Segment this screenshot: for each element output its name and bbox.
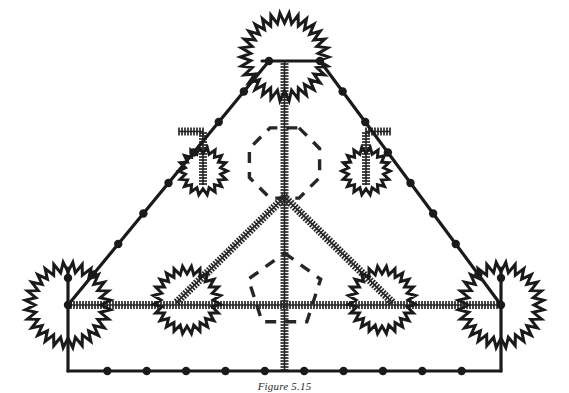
figure-container: Figure 5.15 [0,0,569,393]
right-edge-dot-7 [474,270,482,278]
left-corner-upper-dot [64,274,72,282]
left-corner-mid-dot [64,301,72,309]
inner-right-wavy-loop [348,266,415,333]
figure-caption: Figure 5.15 [0,378,569,393]
inner-left-wavy-loop [153,266,220,333]
bottom-edge-dot-1 [103,367,111,375]
bottom-edge-dot-10 [457,367,465,375]
bottom-edge-dot-5 [261,367,269,375]
right-edge-dot-2 [361,118,369,126]
right-corner-mid-dot [497,301,505,309]
apex-left-dot [265,57,273,65]
apex-right-dot [316,57,324,65]
right-edge-dot-5 [429,209,437,217]
center-v-branches-right [282,194,395,305]
left-edge-dot-6 [114,240,122,248]
center-ladder-spine [281,61,289,371]
bottom-edge-dot-9 [418,367,426,375]
bottom-edge-dot-8 [379,367,387,375]
right-corner-upper-dot [497,274,505,282]
right-edge-dot-6 [452,240,460,248]
left-edge-dot-7 [89,270,97,278]
upper-right-small-loop-stem [362,133,370,185]
right-edge-dot-1 [338,87,346,95]
left-edge-dot-4 [164,179,172,187]
bottom-edge-dot-6 [300,367,308,375]
apex-wavy-loop [240,13,328,101]
bottom-edge-dot-7 [339,367,347,375]
right-edge-dot-4 [406,179,414,187]
bottom-edge-dot-2 [143,367,151,375]
left-edge-dot-2 [215,118,223,126]
right-edge-dot-3 [384,148,392,156]
upper-left-small-loop-elbow [179,128,203,136]
center-v-branches-left [174,194,287,305]
bottom-edge-dot-3 [182,367,190,375]
left-edge-dot-5 [139,209,147,217]
left-edge-dot-3 [189,148,197,156]
left-edge-dot-1 [240,87,248,95]
feynman-diagram [0,0,569,393]
bottom-edge-dot-4 [221,367,229,375]
